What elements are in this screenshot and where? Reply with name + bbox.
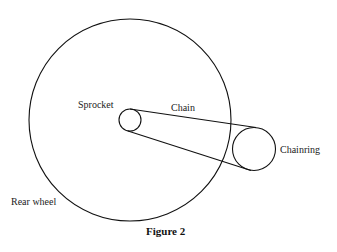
- sprocket-circle: [119, 109, 141, 131]
- figure-caption: Figure 2: [146, 225, 185, 237]
- bicycle-drive-diagram: [0, 0, 337, 252]
- rear-wheel-circle: [29, 19, 231, 221]
- rear-wheel-label: Rear wheel: [11, 196, 56, 207]
- figure: Sprocket Chain Chainring Rear wheel Figu…: [0, 0, 337, 252]
- chainring-label: Chainring: [280, 144, 320, 155]
- sprocket-label: Sprocket: [78, 99, 114, 110]
- chain-label: Chain: [171, 102, 195, 113]
- chainring-circle: [233, 128, 276, 171]
